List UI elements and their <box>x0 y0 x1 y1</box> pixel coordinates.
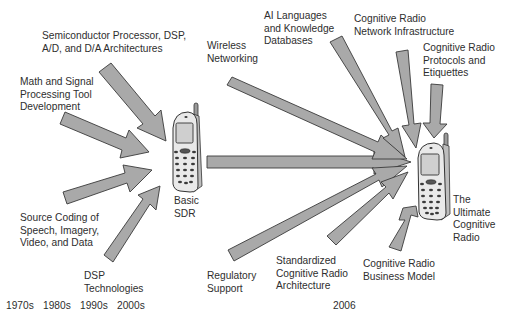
label-ultimate-cognitive-radio: TheUltimateCognitiveRadio <box>453 194 495 244</box>
timeline-1970s: 1970s <box>6 300 34 313</box>
arrow-business <box>389 206 418 251</box>
label-business-model: Cognitive RadioBusiness Model <box>363 258 435 283</box>
label-source-coding: Source Coding ofSpeech, Imagery,Video, a… <box>20 212 99 250</box>
basic-sdr-phone-icon <box>173 103 202 192</box>
label-math-signal-processing: Math and SignalProcessing ToolDevelopmen… <box>20 76 94 114</box>
ultimate-cognitive-radio-phone-icon <box>418 133 450 220</box>
label-semiconductor: Semiconductor Processor, DSP,A/D, and D/… <box>42 30 186 55</box>
timeline-1980s: 1980s <box>43 300 71 313</box>
label-dsp-technologies: DSPTechnologies <box>84 270 143 295</box>
label-ai-languages: AI Languagesand KnowledgeDatabases <box>264 10 334 48</box>
label-basic-sdr: BasicSDR <box>174 195 199 220</box>
arrow-math <box>60 112 149 158</box>
label-standardized-architecture: StandardizedCognitive RadioArchitecture <box>276 255 348 293</box>
label-regulatory-support: RegulatorySupport <box>207 270 256 295</box>
timeline-2000s: 2000s <box>117 300 145 313</box>
arrow-semiconductor <box>99 63 166 141</box>
label-network-infrastructure: Cognitive RadioNetwork Infrastructure <box>354 13 454 38</box>
arrow-protocols <box>423 84 447 138</box>
arrow-network-infra <box>396 50 421 148</box>
arrow-dsp <box>104 186 160 262</box>
arrow-regulatory <box>228 166 407 261</box>
arrow-source-coding <box>63 165 152 204</box>
label-wireless-networking: WirelessNetworking <box>207 40 258 65</box>
timeline-1990s: 1990s <box>80 300 108 313</box>
label-protocols-etiquettes: Cognitive RadioProtocols andEtiquettes <box>423 42 495 80</box>
timeline-2006: 2006 <box>333 300 356 313</box>
